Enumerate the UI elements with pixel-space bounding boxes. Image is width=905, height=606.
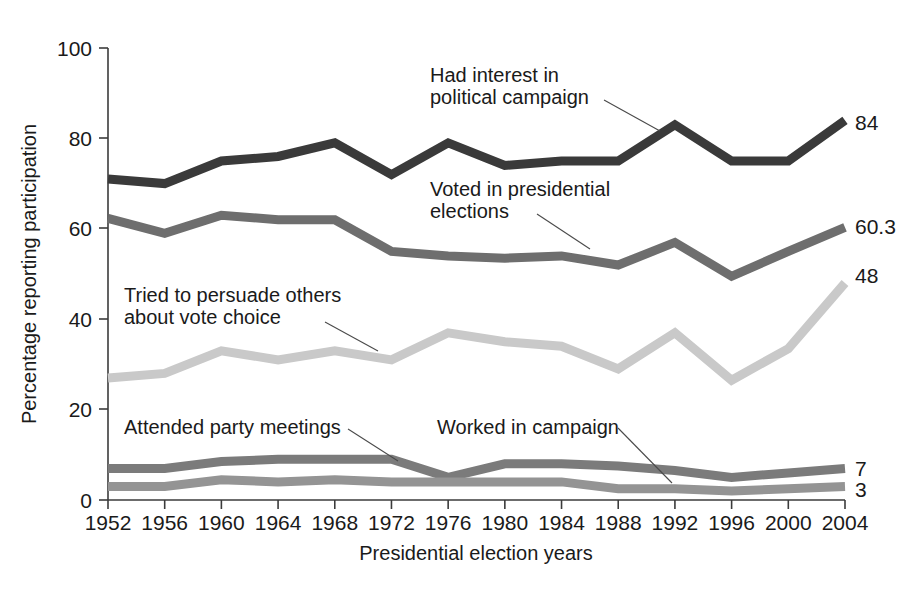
chart-svg: 100 80 60 40 20 0 1952195619601964196819… — [0, 0, 905, 606]
end-value-label-worked: 3 — [855, 478, 867, 501]
y-tick-label: 20 — [69, 398, 92, 421]
annotation-line-1: Had interest in — [430, 64, 559, 86]
y-tick-label: 0 — [80, 489, 92, 512]
x-tick-label: 1956 — [141, 511, 188, 534]
y-tick-label: 60 — [69, 217, 92, 240]
y-tick-label: 100 — [57, 37, 92, 60]
end-value-label-voted: 60.3 — [855, 215, 896, 238]
x-axis-title: Presidential election years — [359, 542, 592, 564]
x-tick-label: 1996 — [708, 511, 755, 534]
x-tick-label: 1980 — [481, 511, 528, 534]
end-value-label-meetings: 7 — [855, 457, 867, 480]
participation-line-chart: 100 80 60 40 20 0 1952195619601964196819… — [0, 0, 905, 606]
annotation-line-2: elections — [430, 200, 509, 222]
y-tick-label: 80 — [69, 127, 92, 150]
x-tick-label: 1976 — [425, 511, 472, 534]
annotation-line-1: Attended party meetings — [124, 416, 341, 438]
x-tick-label: 1992 — [652, 511, 699, 534]
x-tick-label: 1988 — [595, 511, 642, 534]
x-tick-label: 1972 — [368, 511, 415, 534]
x-tick-label: 2000 — [765, 511, 812, 534]
annotation-line-1: Tried to persuade others — [124, 284, 341, 306]
end-value-label-interest: 84 — [855, 111, 879, 134]
x-tick-label: 1964 — [255, 511, 302, 534]
annotation-line-2: political campaign — [430, 86, 589, 108]
x-tick-label: 1984 — [538, 511, 585, 534]
y-axis-title: Percentage reporting participation — [18, 124, 40, 424]
annotation-line-2: about vote choice — [124, 306, 281, 328]
x-tick-label: 2004 — [822, 511, 869, 534]
y-tick-label: 40 — [69, 308, 92, 331]
annotation-line-1: Voted in presidential — [430, 178, 610, 200]
end-value-label-persuade: 48 — [855, 264, 878, 287]
x-tick-label: 1960 — [198, 511, 245, 534]
x-tick-label: 1968 — [311, 511, 358, 534]
annotation-line-1: Worked in campaign — [437, 416, 619, 438]
x-tick-label: 1952 — [85, 511, 132, 534]
